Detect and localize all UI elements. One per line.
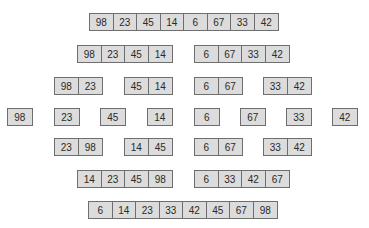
array-cell: 98 — [8, 109, 32, 125]
array-cell: 23 — [55, 139, 79, 155]
array-group: 9823 — [54, 77, 103, 95]
array-cell: 67 — [219, 78, 243, 94]
array-cell: 23 — [55, 109, 79, 125]
array-cell: 42 — [242, 171, 266, 187]
array-cell: 23 — [102, 46, 126, 62]
array-cell: 45 — [149, 139, 173, 155]
array-cell: 67 — [219, 139, 243, 155]
array-group: 667 — [194, 77, 243, 95]
array-group: 667 — [194, 138, 243, 156]
array-group: 67 — [240, 108, 266, 126]
array-cell: 23 — [79, 78, 103, 94]
array-cell: 6 — [195, 78, 219, 94]
array-cell: 98 — [149, 171, 173, 187]
array-cell: 14 — [78, 171, 102, 187]
array-group: 1445 — [124, 138, 173, 156]
array-cell: 33 — [264, 78, 288, 94]
array-cell: 45 — [125, 171, 149, 187]
array-cell: 33 — [264, 139, 288, 155]
array-cell: 23 — [114, 14, 138, 30]
array-cell: 33 — [219, 171, 243, 187]
array-cell: 98 — [254, 202, 278, 218]
array-group: 45 — [100, 108, 126, 126]
array-cell: 42 — [266, 46, 290, 62]
array-cell: 33 — [160, 202, 184, 218]
array-cell: 45 — [101, 109, 125, 125]
array-cell: 6 — [89, 202, 113, 218]
array-group: 2398 — [54, 138, 103, 156]
array-cell: 98 — [79, 139, 103, 155]
array-group: 42 — [332, 108, 358, 126]
array-cell: 45 — [207, 202, 231, 218]
array-cell: 6 — [184, 14, 208, 30]
array-cell: 42 — [288, 139, 312, 155]
array-group: 6673342 — [194, 45, 290, 63]
array-cell: 98 — [90, 14, 114, 30]
array-cell: 67 — [241, 109, 265, 125]
array-cell: 23 — [102, 171, 126, 187]
array-group: 982345146673342 — [89, 13, 279, 31]
array-cell: 14 — [113, 202, 137, 218]
array-cell: 33 — [287, 109, 311, 125]
array-cell: 14 — [161, 14, 185, 30]
array-cell: 67 — [208, 14, 232, 30]
array-group: 4514 — [124, 77, 173, 95]
array-group: 14234598 — [77, 170, 173, 188]
array-cell: 14 — [125, 139, 149, 155]
array-cell: 98 — [78, 46, 102, 62]
array-cell: 45 — [125, 46, 149, 62]
array-cell: 98 — [55, 78, 79, 94]
array-cell: 6 — [195, 139, 219, 155]
array-cell: 23 — [136, 202, 160, 218]
array-cell: 14 — [149, 46, 173, 62]
array-cell: 6 — [195, 171, 219, 187]
array-cell: 42 — [255, 14, 279, 30]
array-cell: 6 — [195, 46, 219, 62]
array-cell: 6 — [195, 109, 219, 125]
array-group: 6 — [194, 108, 220, 126]
array-group: 614233342456798 — [88, 201, 278, 219]
array-cell: 67 — [266, 171, 290, 187]
array-cell: 67 — [230, 202, 254, 218]
array-cell: 42 — [333, 109, 357, 125]
array-cell: 67 — [219, 46, 243, 62]
array-cell: 42 — [183, 202, 207, 218]
array-group: 98234514 — [77, 45, 173, 63]
array-cell: 45 — [137, 14, 161, 30]
array-group: 6334267 — [194, 170, 290, 188]
array-group: 98 — [7, 108, 33, 126]
array-cell: 14 — [148, 109, 172, 125]
array-cell: 42 — [288, 78, 312, 94]
array-group: 23 — [54, 108, 80, 126]
array-group: 33 — [286, 108, 312, 126]
array-group: 3342 — [263, 77, 312, 95]
array-group: 3342 — [263, 138, 312, 156]
array-cell: 45 — [125, 78, 149, 94]
array-cell: 33 — [231, 14, 255, 30]
array-cell: 33 — [242, 46, 266, 62]
array-cell: 14 — [149, 78, 173, 94]
array-group: 14 — [147, 108, 173, 126]
